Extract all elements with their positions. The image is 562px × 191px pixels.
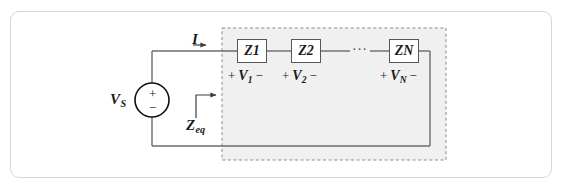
current-label: I	[192, 32, 198, 47]
figure-root: VS + − I Zeq Z1 Z2 ZN ··· + V1 − + V2 − …	[0, 0, 562, 191]
impedance-box-z1-label: Z1	[238, 40, 266, 62]
vn-minus-sign: −	[410, 68, 417, 84]
v2-minus-sign: −	[309, 68, 316, 84]
series-ellipsis: ···	[352, 42, 368, 58]
impedance-box-z2: Z2	[291, 39, 321, 63]
impedance-box-z2-label: Z2	[292, 40, 320, 62]
circuit-schematic-svg	[0, 0, 562, 191]
vn-name: VN	[390, 68, 406, 85]
equivalent-impedance-label: Zeq	[186, 118, 205, 135]
v1-plus-sign: +	[228, 68, 235, 84]
impedance-box-zn: ZN	[389, 39, 419, 63]
source-label: VS	[110, 92, 126, 109]
vn-plus-sign: +	[380, 68, 387, 84]
source-minus-sign: −	[149, 101, 156, 114]
voltage-label-v1: + V1 −	[228, 68, 263, 85]
v2-plus-sign: +	[282, 68, 289, 84]
v1-minus-sign: −	[255, 68, 262, 84]
zeq-leader-arrow	[196, 95, 216, 118]
v1-name: V1	[238, 68, 252, 85]
impedance-box-z1: Z1	[237, 39, 267, 63]
source-plus-sign: +	[149, 87, 156, 100]
impedance-box-zn-label: ZN	[390, 40, 418, 62]
v2-name: V2	[292, 68, 306, 85]
voltage-label-vn: + VN −	[380, 68, 417, 85]
voltage-label-v2: + V2 −	[282, 68, 317, 85]
